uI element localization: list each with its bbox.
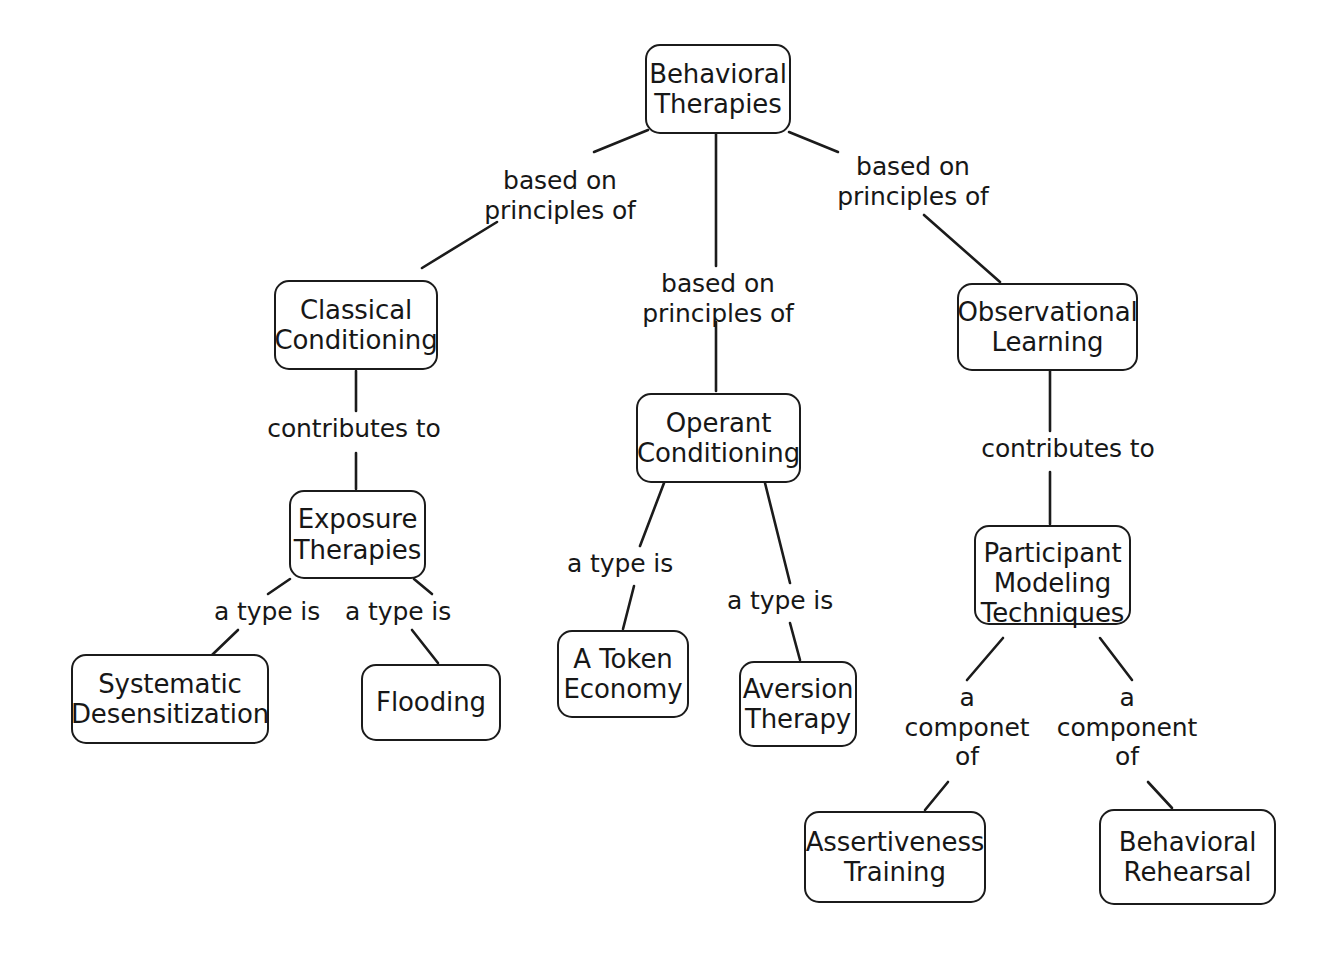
node-label: Behavioral Therapies bbox=[643, 59, 793, 119]
node-label: Flooding bbox=[370, 687, 492, 717]
node-a-token-economy[interactable]: A Token Economy bbox=[557, 630, 689, 718]
edge-operant-conditioning-to-aversion-therapy bbox=[765, 483, 790, 583]
edge-label-bt-oc: based on principles of bbox=[628, 269, 808, 328]
node-label: Exposure Therapies bbox=[288, 504, 427, 564]
node-behavioral-rehearsal[interactable]: Behavioral Rehearsal bbox=[1099, 809, 1276, 905]
edge-label-ol-pmt: contributes to bbox=[960, 434, 1176, 464]
node-observational-learning[interactable]: Observational Learning bbox=[957, 283, 1138, 371]
edge-label-et-fl: a type is bbox=[336, 597, 460, 627]
edge-label-oc-ate: a type is bbox=[558, 549, 682, 579]
node-operant-conditioning[interactable]: Operant Conditioning bbox=[636, 393, 801, 483]
node-behavioral-therapies[interactable]: Behavioral Therapies bbox=[645, 44, 791, 134]
edge-behavioral-therapies-to-observational-learning bbox=[789, 132, 838, 152]
node-label: Behavioral Rehearsal bbox=[1113, 827, 1263, 887]
node-label: Participant Modeling Techniques bbox=[975, 538, 1130, 628]
edge-operant-conditioning-to-aversion-therapy bbox=[790, 623, 800, 660]
edge-operant-conditioning-to-a-token-economy bbox=[623, 586, 634, 629]
node-label: Aversion Therapy bbox=[737, 674, 860, 734]
node-flooding[interactable]: Flooding bbox=[361, 664, 501, 741]
node-label: Observational Learning bbox=[951, 297, 1143, 357]
concept-map-canvas: Behavioral TherapiesClassical Conditioni… bbox=[0, 0, 1334, 966]
edge-participant-modeling-techniques-to-assertiveness-training bbox=[925, 782, 948, 810]
edge-behavioral-therapies-to-observational-learning bbox=[924, 215, 1000, 282]
node-label: Assertiveness Training bbox=[800, 827, 991, 887]
edge-exposure-therapies-to-systematic-desensitization bbox=[212, 630, 238, 655]
node-assertiveness-training[interactable]: Assertiveness Training bbox=[804, 811, 986, 903]
edge-label-cc-et: contributes to bbox=[246, 414, 462, 444]
edge-behavioral-therapies-to-classical-conditioning bbox=[594, 130, 648, 152]
edge-label-et-sd: a type is bbox=[205, 597, 329, 627]
node-classical-conditioning[interactable]: Classical Conditioning bbox=[274, 280, 438, 370]
edge-label-bt-ol: based on principles of bbox=[823, 152, 1003, 211]
edge-label-pmt-br: a component of bbox=[1054, 683, 1200, 772]
edge-label-oc-av: a type is bbox=[718, 586, 842, 616]
edge-operant-conditioning-to-a-token-economy bbox=[640, 483, 664, 546]
node-participant-modeling-techniques[interactable]: Participant Modeling Techniques bbox=[974, 525, 1131, 625]
node-exposure-therapies[interactable]: Exposure Therapies bbox=[289, 490, 426, 579]
edge-participant-modeling-techniques-to-behavioral-rehearsal bbox=[1100, 638, 1132, 680]
node-label: Systematic Desensitization bbox=[65, 669, 275, 729]
edge-behavioral-therapies-to-classical-conditioning bbox=[422, 222, 497, 268]
edge-participant-modeling-techniques-to-assertiveness-training bbox=[967, 638, 1003, 680]
edge-label-pmt-at: a componet of bbox=[894, 683, 1040, 772]
edge-exposure-therapies-to-systematic-desensitization bbox=[268, 579, 290, 594]
node-aversion-therapy[interactable]: Aversion Therapy bbox=[739, 661, 857, 747]
node-label: Classical Conditioning bbox=[268, 295, 443, 355]
edge-exposure-therapies-to-flooding bbox=[414, 579, 432, 594]
edge-exposure-therapies-to-flooding bbox=[412, 630, 438, 663]
edge-label-bt-cc: based on principles of bbox=[470, 166, 650, 225]
node-systematic-desensitization[interactable]: Systematic Desensitization bbox=[71, 654, 269, 744]
edge-participant-modeling-techniques-to-behavioral-rehearsal bbox=[1148, 782, 1172, 808]
node-label: A Token Economy bbox=[557, 644, 688, 704]
node-label: Operant Conditioning bbox=[631, 408, 806, 468]
